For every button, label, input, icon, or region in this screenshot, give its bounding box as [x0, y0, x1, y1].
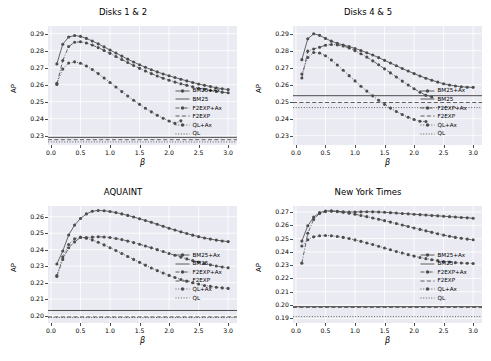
y-tick-mark	[290, 225, 293, 226]
legend-label: BM25	[438, 95, 454, 104]
legend-item-bm25[interactable]: BM25	[175, 259, 239, 268]
legend-item-f2exp-ax[interactable]: F2EXP+Ax	[175, 104, 239, 113]
legend-item-ql[interactable]: QL	[175, 294, 239, 303]
legend-label: F2EXP+Ax	[193, 104, 222, 113]
y-tick-mark	[290, 212, 293, 213]
legend-label: F2EXP	[438, 112, 456, 121]
x-axis-label: β	[48, 336, 237, 345]
legend-item-bm25-ax[interactable]: BM25+Ax	[420, 251, 484, 260]
x-tick-mark	[140, 145, 141, 148]
y-tick-label: 0.25	[21, 98, 44, 105]
legend-item-ql[interactable]: QL	[420, 129, 484, 138]
x-tick-label: 0.5	[313, 327, 337, 334]
x-tick-label: 3.0	[216, 149, 240, 156]
x-axis-label: β	[293, 336, 482, 345]
chart-panel-new-york-times: New York Times0.190.200.210.220.230.240.…	[245, 180, 491, 361]
legend-item-bm25-ax[interactable]: BM25+Ax	[420, 86, 484, 95]
legend-item-ql-ax[interactable]: QL+Ax	[420, 285, 484, 294]
y-tick-label: 0.27	[21, 64, 44, 71]
legend-item-ql[interactable]: QL	[175, 129, 239, 138]
legend-swatch-solid-marker	[420, 87, 435, 95]
legend-label: F2EXP+Ax	[438, 268, 467, 277]
legend-swatch-dashed	[175, 112, 190, 120]
chart-title-new-york-times: New York Times	[245, 187, 491, 197]
legend-swatch-solid	[420, 95, 435, 103]
legend-item-bm25-ax[interactable]: BM25+Ax	[175, 86, 239, 95]
y-tick-label: 0.24	[21, 115, 44, 122]
y-tick-mark	[45, 233, 48, 234]
x-tick-label: 2.5	[187, 149, 211, 156]
x-tick-mark	[80, 145, 81, 148]
y-tick-label: 0.27	[266, 64, 289, 71]
x-tick-label: 2.0	[402, 149, 426, 156]
y-tick-label: 0.28	[266, 47, 289, 54]
legend-swatch-dashdot-marker	[175, 104, 190, 112]
y-tick-mark	[290, 51, 293, 52]
legend-label: QL	[193, 129, 201, 138]
x-tick-label: 0.0	[39, 149, 63, 156]
legend-swatch-dotted-marker	[175, 285, 190, 293]
x-tick-mark	[444, 145, 445, 148]
x-tick-mark	[169, 145, 170, 148]
legend-item-f2exp[interactable]: F2EXP	[420, 276, 484, 285]
x-tick-label: 1.5	[128, 327, 152, 334]
x-axis-label: β	[293, 158, 482, 167]
legend-item-f2exp[interactable]: F2EXP	[175, 276, 239, 285]
y-axis-label: AP	[10, 262, 18, 271]
y-tick-mark	[45, 250, 48, 251]
legend-item-f2exp-ax[interactable]: F2EXP+Ax	[420, 104, 484, 113]
legend-swatch-solid	[175, 260, 190, 268]
legend-item-bm25-ax[interactable]: BM25+Ax	[175, 251, 239, 260]
y-tick-label: 0.29	[266, 30, 289, 37]
legend-swatch-dotted-marker	[175, 121, 190, 129]
legend-label: BM25+Ax	[438, 86, 466, 95]
legend-item-f2exp-ax[interactable]: F2EXP+Ax	[420, 268, 484, 277]
legend-item-f2exp[interactable]: F2EXP	[420, 112, 484, 121]
x-tick-mark	[169, 323, 170, 326]
legend-item-ql-ax[interactable]: QL+Ax	[175, 285, 239, 294]
legend-item-bm25[interactable]: BM25	[420, 95, 484, 104]
chart-legend-disks-4-5: BM25+AxBM25F2EXP+AxF2EXPQL+AxQL	[420, 86, 484, 138]
chart-legend-disks-1-2: BM25+AxBM25F2EXP+AxF2EXPQL+AxQL	[175, 86, 239, 138]
legend-label: F2EXP+Ax	[438, 104, 467, 113]
legend-item-bm25[interactable]: BM25	[175, 95, 239, 104]
legend-item-ql-ax[interactable]: QL+Ax	[420, 121, 484, 130]
legend-item-ql[interactable]: QL	[420, 294, 484, 303]
x-tick-label: 1.5	[373, 149, 397, 156]
chart-title-disks-4-5: Disks 4 & 5	[245, 7, 491, 17]
legend-swatch-dotted-marker	[420, 285, 435, 293]
x-axis-label: β	[48, 158, 237, 167]
legend-label: QL+Ax	[193, 121, 212, 130]
x-tick-mark	[80, 323, 81, 326]
legend-item-ql-ax[interactable]: QL+Ax	[175, 121, 239, 130]
legend-swatch-dotted	[175, 130, 190, 138]
chart-title-aquaint: AQUAINT	[0, 187, 246, 197]
legend-swatch-dotted	[420, 130, 435, 138]
legend-item-f2exp[interactable]: F2EXP	[175, 112, 239, 121]
legend-swatch-dashdot-marker	[175, 268, 190, 276]
y-tick-label: 0.24	[21, 246, 44, 253]
chart-title-disks-1-2: Disks 1 & 2	[0, 7, 246, 17]
x-tick-mark	[385, 323, 386, 326]
legend-swatch-dashdot-marker	[420, 268, 435, 276]
y-tick-mark	[290, 239, 293, 240]
y-tick-label: 0.23	[266, 261, 289, 268]
x-tick-mark	[110, 323, 111, 326]
x-tick-label: 1.0	[343, 149, 367, 156]
x-tick-mark	[51, 323, 52, 326]
legend-label: BM25	[193, 95, 209, 104]
chart-panel-disks-1-2: Disks 1 & 20.230.240.250.260.270.280.290…	[0, 0, 246, 181]
legend-item-f2exp-ax[interactable]: F2EXP+Ax	[175, 268, 239, 277]
x-tick-label: 3.0	[461, 149, 485, 156]
y-tick-label: 0.22	[266, 274, 289, 281]
legend-label: BM25+Ax	[193, 251, 221, 260]
legend-item-bm25[interactable]: BM25	[420, 259, 484, 268]
x-tick-mark	[110, 145, 111, 148]
series-ql-ax	[300, 51, 427, 123]
y-axis-label: AP	[255, 83, 263, 92]
legend-label: QL	[193, 294, 201, 303]
x-tick-mark	[325, 323, 326, 326]
y-tick-label: 0.25	[266, 98, 289, 105]
x-tick-mark	[228, 145, 229, 148]
legend-swatch-dotted	[175, 294, 190, 302]
